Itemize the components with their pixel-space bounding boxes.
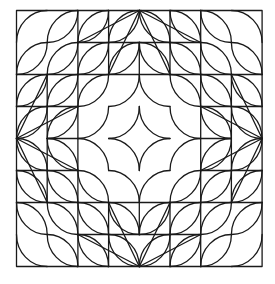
leaf-arc (17, 11, 48, 43)
straight-lines (17, 11, 263, 267)
ring-cusp-arc (109, 75, 140, 107)
ring-cusp-arc (139, 171, 170, 203)
ring-cusp-arc (139, 75, 170, 107)
ring-cusp-arc (78, 107, 109, 139)
astroid-arc (139, 139, 170, 171)
ring-cusp-arc (109, 171, 140, 203)
ring-cusp-arcs (78, 75, 201, 203)
astroid-arc (139, 107, 170, 139)
ring-cusp-arc (170, 139, 201, 171)
astroid-arc (109, 139, 140, 171)
leaf-arc (17, 235, 48, 267)
ring-cusp-arc (78, 139, 109, 171)
leaf-arc (231, 11, 262, 43)
ring-cusp-arc (170, 107, 201, 139)
pattern-grid (17, 11, 263, 267)
astroid-arc (109, 107, 140, 139)
geometric-pattern (0, 0, 275, 284)
center-astroid-star (109, 107, 170, 171)
leaf-arc (231, 235, 262, 267)
